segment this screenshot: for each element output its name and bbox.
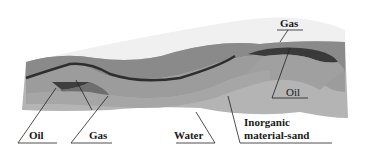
label-water: Water: [174, 129, 203, 141]
label-gas-top: Gas: [280, 17, 298, 29]
label-inorganic-line1: Inorganic: [244, 116, 290, 128]
label-inorganic-line2: material-sand: [244, 129, 309, 141]
label-gas-left: Gas: [89, 129, 107, 141]
label-oil-right: Oil: [286, 86, 300, 98]
label-oil-left: Oil: [29, 129, 44, 141]
